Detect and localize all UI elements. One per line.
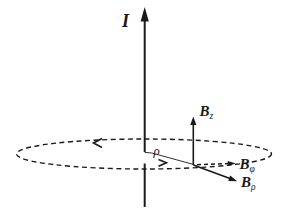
field-direction-right-chevron-icon (159, 160, 167, 167)
radius-line (145, 152, 194, 164)
current-label: I (121, 11, 130, 31)
brho-label: Bρ (240, 174, 256, 193)
bphi-vector (197, 164, 228, 165)
brho-arrowhead-icon (228, 175, 237, 181)
bz-arrowhead-icon (190, 117, 196, 126)
radius-label: ρ (153, 143, 160, 158)
current-arrowhead-icon (141, 7, 149, 22)
bphi-arrowhead-icon (228, 161, 236, 166)
bphi-label: Bφ (239, 156, 255, 175)
figure-canvas: I ρ Bz Bφ Bρ (0, 0, 285, 219)
bz-label: Bz (199, 103, 214, 121)
physics-diagram-magnetic-field-around-wire: I ρ Bz Bφ Bρ (0, 0, 285, 219)
wire-occlusion-gap (140, 155, 149, 164)
